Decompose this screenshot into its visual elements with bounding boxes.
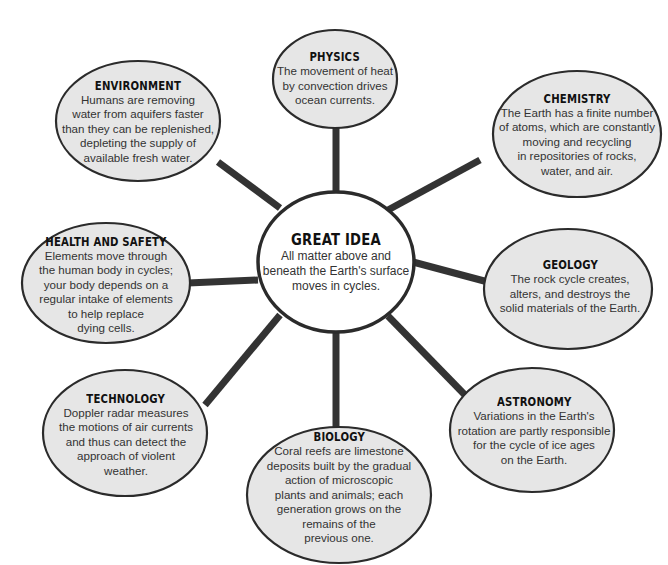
connector-chemistry (388, 160, 480, 210)
node-body: Elements move through the human body in … (39, 249, 173, 336)
node-chemistry: CHEMISTRY The Earth has a finite number … (492, 90, 662, 180)
connector-technology (205, 315, 280, 405)
node-title: HEALTH AND SAFETY (45, 235, 166, 249)
connector-astronomy (388, 316, 465, 395)
connector-geology (413, 262, 488, 282)
connector-environment (218, 162, 280, 208)
node-body: The movement of heat by convection drive… (277, 64, 393, 108)
node-astronomy: ASTRONOMY Variations in the Earth's rota… (452, 395, 616, 467)
node-title: BIOLOGY (313, 430, 364, 444)
node-body: All matter above and beneath the Earth's… (263, 249, 409, 294)
node-title: PHYSICS (310, 50, 360, 64)
node-body: Coral reefs are limestone deposits built… (267, 444, 411, 546)
node-title: GREAT IDEA (291, 231, 381, 249)
node-geology: GEOLOGY The rock cycle creates, alters, … (488, 256, 652, 318)
node-body: The rock cycle creates, alters, and dest… (500, 272, 640, 316)
node-title: TECHNOLOGY (87, 392, 166, 406)
node-body: The Earth has a finite number of atoms, … (499, 106, 655, 179)
node-great-idea: GREAT IDEA All matter above and beneath … (258, 226, 414, 298)
node-title: CHEMISTRY (544, 92, 611, 106)
node-body: Humans are removing water from aquifers … (62, 93, 214, 166)
node-biology: BIOLOGY Coral reefs are limestone deposi… (259, 430, 419, 546)
connector-health (188, 280, 258, 283)
node-body: Variations in the Earth's rotation are p… (458, 409, 611, 467)
node-technology: TECHNOLOGY Doppler radar measures the mo… (48, 393, 204, 477)
node-title: ENVIRONMENT (95, 79, 181, 93)
node-title: ASTRONOMY (497, 395, 571, 409)
node-title: GEOLOGY (542, 258, 597, 272)
node-environment: ENVIRONMENT Humans are removing water fr… (58, 80, 218, 164)
node-body: Doppler radar measures the motions of ai… (59, 406, 193, 479)
node-physics: PHYSICS The movement of heat by convecti… (275, 48, 395, 110)
node-health-and-safety: HEALTH AND SAFETY Elements move through … (26, 236, 186, 334)
